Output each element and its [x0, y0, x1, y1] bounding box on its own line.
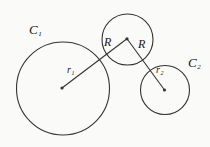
center-dot-c1 — [60, 86, 63, 89]
geometry-diagram: C1RRr1r2C2 — [0, 0, 210, 147]
label-r-right: R — [137, 37, 146, 51]
center-dot-middle — [125, 37, 128, 40]
label-r-left: R — [103, 35, 112, 49]
diagram-canvas: C1RRr1r2C2 — [0, 0, 210, 147]
center-dot-c2 — [163, 88, 166, 91]
